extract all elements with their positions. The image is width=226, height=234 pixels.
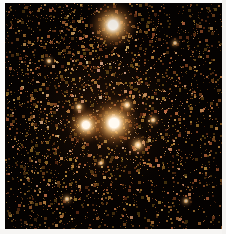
- frame-edge-bottom: [0, 229, 226, 234]
- frame-edge-right: [222, 0, 226, 234]
- frame-edge-left: [0, 0, 5, 234]
- frame-edge-top: [0, 0, 226, 3]
- sky-field: [5, 3, 222, 229]
- star-field-canvas: [5, 3, 222, 229]
- star-field-figure: [0, 0, 226, 234]
